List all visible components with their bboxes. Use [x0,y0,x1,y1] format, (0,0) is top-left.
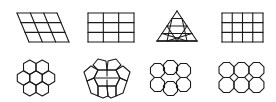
triangular-grid [157,11,197,41]
square-grid [222,13,263,42]
rectangular-grid [88,13,134,42]
octagon-cluster-offset [150,60,190,95]
tiling-figure [0,0,276,102]
oblique-grid [17,13,69,42]
pentagon-cluster [84,59,130,98]
hexagon-cluster [17,60,54,96]
octagon-square-cluster [219,63,264,93]
